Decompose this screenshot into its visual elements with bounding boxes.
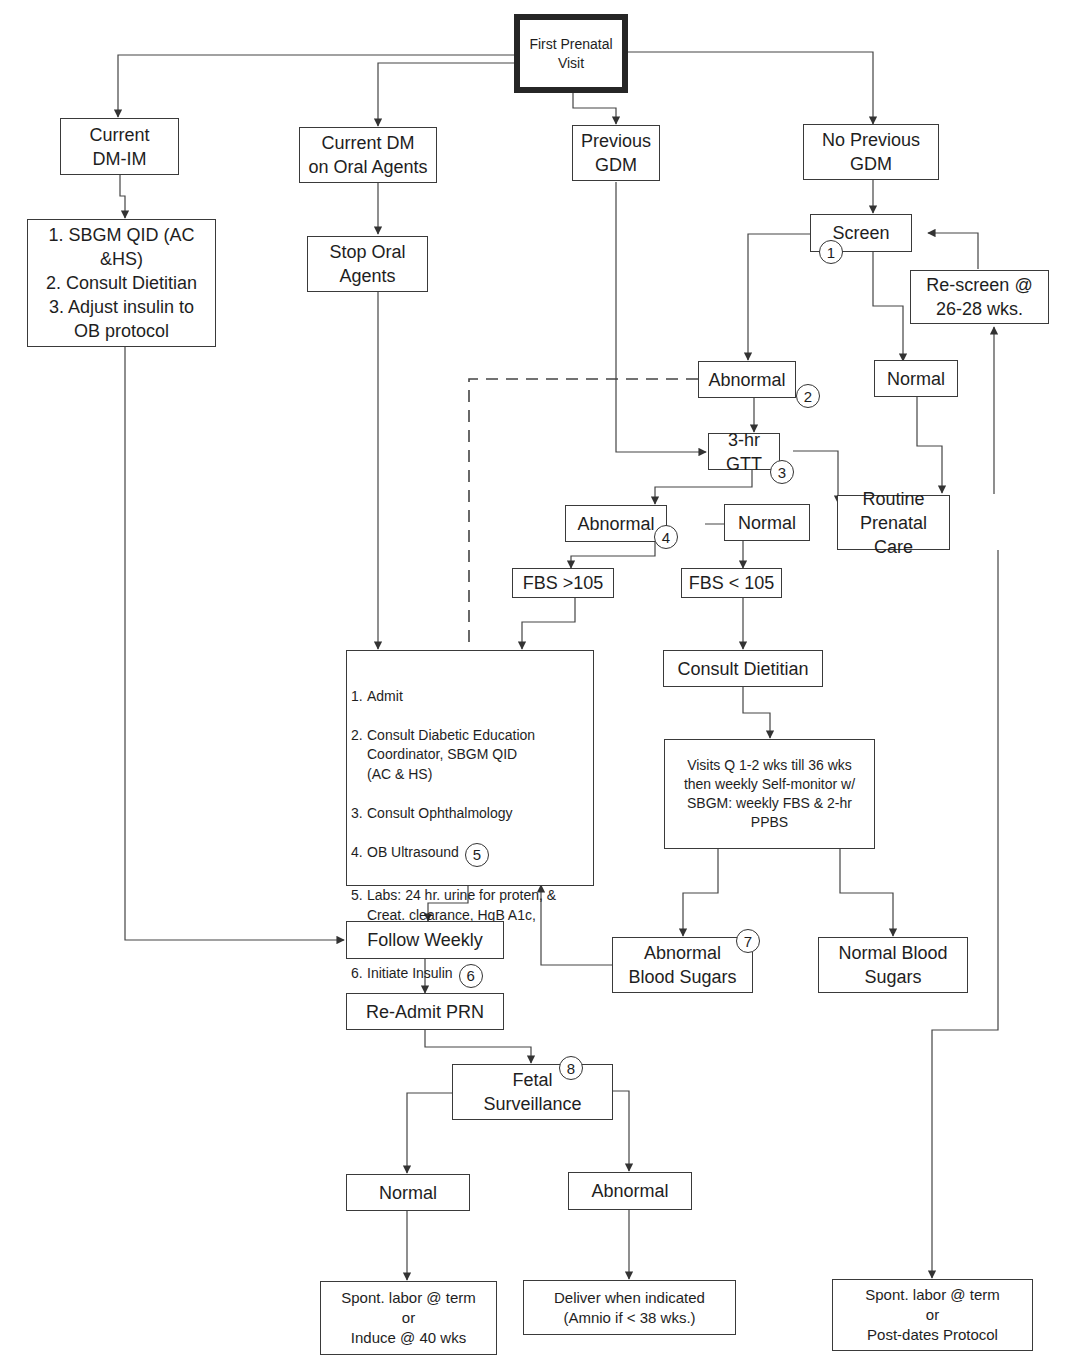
node-previous-gdm: Previous GDM [572,125,660,181]
node-abnormal-blood-sugars: Abnormal Blood Sugars [612,937,753,993]
node-label: Follow Weekly [367,928,483,952]
node-label: Abnormal [708,368,785,392]
node-gtt-normal: Normal [724,504,810,541]
node-label: FBS < 105 [689,571,775,595]
node-visits: Visits Q 1-2 wks till 36 wks then weekly… [664,739,875,849]
step-badge-4: 4 [654,525,678,549]
node-fetal-normal: Normal [346,1174,470,1211]
node-rescreen: Re-screen @ 26-28 wks. [910,270,1049,324]
edge-abn4-fbshigh [571,541,655,568]
node-label: 3-hr GTT [713,428,775,476]
admit-step: 1. Admit [351,687,589,707]
node-label: Deliver when indicated (Amnio if < 38 wk… [554,1288,705,1328]
edge-gtt-normal [793,451,838,503]
node-label: Normal Blood Sugars [838,941,947,989]
edge-start-oral [378,63,516,126]
node-label: Abnormal [591,1179,668,1203]
edge-dietitian-visits [743,686,770,738]
node-label: Spont. labor @ term or Induce @ 40 wks [341,1288,475,1348]
edge-normal-routine [917,397,942,493]
node-label: FBS >105 [523,571,604,595]
node-label: Abnormal Blood Sugars [628,941,736,989]
node-first-prenatal-visit: First Prenatal Visit [514,14,628,93]
edge-visits-normsugars [840,849,893,936]
node-admit-steps: 1. Admit 2. Consult Diabetic Education C… [346,650,594,886]
node-consult-dietitian: Consult Dietitian [663,650,823,687]
node-label: Abnormal [577,512,654,536]
admit-step: 4. OB Ultrasound 5 [351,843,589,867]
step-badge-8: 8 [559,1056,583,1080]
edge-rescreen-screen [928,233,978,269]
node-label: Spont. labor @ term or Post-dates Protoc… [865,1285,999,1345]
node-outcome-normal: Spont. labor @ term or Induce @ 40 wks [320,1281,497,1355]
edge-screen-normal [873,252,903,361]
node-label: Visits Q 1-2 wks till 36 wks then weekly… [684,756,855,832]
step-badge-2: 2 [796,384,820,408]
node-outcome-abnormal: Deliver when indicated (Amnio if < 38 wk… [523,1280,736,1335]
step-badge-6: 6 [459,964,483,988]
node-gtt-abnormal: Abnormal [565,505,667,542]
node-label: Re-Admit PRN [366,1000,484,1024]
admit-step: 6. Initiate Insulin 6 [351,964,589,988]
node-label: Previous GDM [581,129,651,177]
node-dm-im-steps: 1. SBGM QID (AC &HS) 2. Consult Dietitia… [27,219,216,347]
node-follow-weekly: Follow Weekly [346,921,504,959]
edge-screen-abnormal [748,234,820,360]
admit-step: 2. Consult Diabetic Education Coordinato… [351,726,589,785]
edge-routine-outcome [932,550,998,1278]
edge-fbshigh-admit [522,597,575,649]
edge-start-prevgdm [573,92,616,124]
node-fetal-surveillance: Fetal Surveillance [452,1064,613,1120]
node-label: Normal [379,1181,437,1205]
node-label: No Previous GDM [822,128,920,176]
node-readmit-prn: Re-Admit PRN [346,993,504,1030]
node-label: Screen [832,221,889,245]
node-screen-normal: Normal [874,360,958,397]
edge-readmit-fetal [425,1030,531,1063]
node-normal-blood-sugars: Normal Blood Sugars [818,937,968,993]
step-badge-7: 7 [736,929,760,953]
edge-start-noprev [626,52,873,124]
step-badge-3: 3 [770,460,794,484]
node-outcome-routine: Spont. labor @ term or Post-dates Protoc… [832,1279,1033,1351]
edge-fetal-normal [407,1093,452,1173]
node-fbs-low: FBS < 105 [681,568,782,598]
node-stop-oral-agents: Stop Oral Agents [307,236,428,292]
node-current-dm-oral-agents: Current DM on Oral Agents [299,127,437,183]
node-label: Consult Dietitian [677,657,808,681]
node-label: 1. SBGM QID (AC &HS) 2. Consult Dietitia… [46,223,197,343]
node-label: Normal [738,511,796,535]
node-fbs-high: FBS >105 [512,568,614,598]
node-label: Normal [887,367,945,391]
node-fetal-abnormal: Abnormal [568,1172,692,1210]
edge-dmim-steps [120,175,125,218]
edge-visits-abnsugars [683,849,718,936]
node-no-previous-gdm: No Previous GDM [803,124,939,180]
admit-step: 3. Consult Ophthalmology [351,804,589,824]
node-label: First Prenatal Visit [529,35,612,73]
edge-prevgdm-gtt [616,182,706,452]
node-label: Re-screen @ 26-28 wks. [926,273,1032,321]
node-label: Current DM-IM [89,123,149,171]
node-current-dm-im: Current DM-IM [60,118,179,175]
edge-steps-follow [125,346,344,940]
node-routine-prenatal-care: Routine Prenatal Care [837,495,950,550]
edge-fetal-abnormal [612,1091,629,1171]
node-screen-abnormal: Abnormal [698,361,796,398]
node-label: Routine Prenatal Care [842,487,945,559]
node-label: Current DM on Oral Agents [308,131,427,179]
edge-start-dmim [118,55,516,117]
node-3hr-gtt: 3-hr GTT [708,433,780,470]
step-badge-1: 1 [819,240,843,264]
step-badge-5: 5 [465,843,489,867]
node-label: Stop Oral Agents [329,240,405,288]
